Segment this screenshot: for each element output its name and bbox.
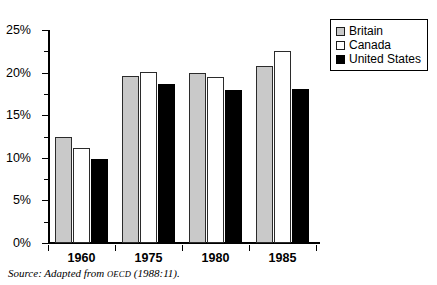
caption-prefix: Source: Adapted from [8,267,107,279]
x-axis-label-1985: 1985 [269,252,297,265]
x-axis-label-1980: 1980 [202,252,230,265]
legend-item-britain: Britain [336,24,421,38]
source-caption: Source: Adapted from OECD (1988:11). [8,267,180,279]
x-axis-label-1975: 1975 [135,252,163,265]
legend-item-united-states: United States [336,52,421,66]
legend-swatch-canada [336,41,345,50]
caption-smallcaps: OECD [107,269,131,279]
caption-suffix: (1988:11). [131,267,180,279]
bar-chart-figure: 0%5%10%15%20%25% 1960197519801985 Britai… [0,0,437,285]
bar-1985-canada [274,51,291,243]
legend-label-united-states: United States [349,53,421,65]
legend: Britain Canada United States [330,19,428,71]
legend-swatch-britain [336,27,345,36]
x-axis-label-1960: 1960 [68,252,96,265]
bar-1985-united-states [292,89,309,243]
legend-label-britain: Britain [349,25,383,37]
legend-item-canada: Canada [336,38,421,52]
bar-1985-britain [256,66,273,243]
legend-label-canada: Canada [349,39,391,51]
legend-swatch-united-states [336,55,345,64]
